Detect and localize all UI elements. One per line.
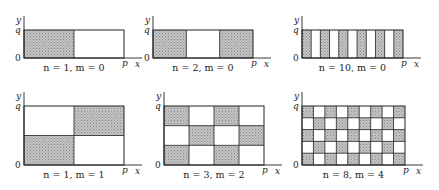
shaded-region bbox=[325, 130, 336, 142]
shaded-region bbox=[302, 130, 313, 142]
p-tick-label: p bbox=[251, 58, 257, 68]
shaded-region bbox=[24, 30, 74, 58]
panel-p3: yq0pxn = 10, m = 0 bbox=[293, 15, 421, 73]
x-axis-label: x bbox=[416, 166, 421, 176]
shaded-region bbox=[313, 118, 324, 130]
y-axis-label: y bbox=[15, 91, 22, 101]
shaded-region bbox=[382, 118, 393, 130]
origin-label: 0 bbox=[155, 160, 161, 170]
shaded-region bbox=[371, 153, 382, 165]
y-axis-label: y bbox=[144, 15, 151, 25]
p-tick-label: p bbox=[401, 58, 407, 68]
shaded-region bbox=[336, 118, 347, 130]
y-axis-label: y bbox=[293, 15, 300, 25]
shaded-region bbox=[359, 141, 370, 153]
x-axis-label: x bbox=[275, 166, 280, 176]
q-tick-label: q bbox=[293, 101, 299, 111]
panel-p4: yq0pxn = 1, m = 1 bbox=[15, 91, 142, 180]
origin-label: 0 bbox=[144, 53, 150, 63]
shaded-region bbox=[214, 145, 239, 165]
y-axis-label: y bbox=[155, 91, 162, 101]
nodal-pattern-figure: yq0pxn = 1, m = 0yq0pxn = 2, m = 0yq0pxn… bbox=[0, 0, 439, 190]
shaded-region bbox=[153, 30, 186, 58]
shaded-region bbox=[359, 118, 370, 130]
panel-caption: n = 2, m = 0 bbox=[172, 62, 233, 73]
shaded-region bbox=[375, 30, 384, 58]
panel-p6: yq0pxn = 8, m = 4 bbox=[293, 91, 423, 180]
shaded-region bbox=[302, 106, 313, 118]
shaded-region bbox=[164, 106, 189, 126]
q-tick-label: q bbox=[155, 101, 161, 111]
shaded-region bbox=[220, 30, 253, 58]
q-tick-label: q bbox=[15, 25, 21, 35]
p-tick-label: p bbox=[122, 58, 128, 68]
shaded-region bbox=[214, 106, 239, 126]
shaded-region bbox=[357, 30, 366, 58]
origin-label: 0 bbox=[15, 53, 21, 63]
x-axis-label: x bbox=[135, 59, 140, 69]
shaded-region bbox=[189, 126, 214, 146]
panel-caption: n = 1, m = 0 bbox=[43, 62, 104, 73]
shaded-region bbox=[336, 141, 347, 153]
panel-p1: yq0pxn = 1, m = 0 bbox=[15, 15, 142, 73]
origin-label: 0 bbox=[293, 53, 299, 63]
q-tick-label: q bbox=[15, 101, 21, 111]
shaded-region bbox=[371, 130, 382, 142]
x-axis-label: x bbox=[264, 59, 269, 69]
shaded-region bbox=[313, 141, 324, 153]
shaded-region bbox=[348, 106, 359, 118]
p-tick-label: p bbox=[403, 165, 409, 175]
shaded-region bbox=[394, 130, 405, 142]
shaded-region bbox=[74, 106, 124, 136]
q-tick-label: q bbox=[293, 25, 299, 35]
x-axis-label: x bbox=[414, 59, 419, 69]
shaded-region bbox=[339, 30, 348, 58]
origin-label: 0 bbox=[293, 160, 299, 170]
q-tick-label: q bbox=[144, 25, 150, 35]
shaded-region bbox=[302, 30, 311, 58]
shaded-region bbox=[394, 106, 405, 118]
shaded-region bbox=[24, 136, 74, 166]
shaded-region bbox=[382, 141, 393, 153]
shaded-region bbox=[371, 106, 382, 118]
panel-p5: yq0pxn = 3, m = 2 bbox=[155, 91, 282, 180]
shaded-region bbox=[239, 126, 264, 146]
domain-boundary bbox=[302, 30, 403, 58]
panel-caption: n = 10, m = 0 bbox=[319, 62, 386, 73]
origin-label: 0 bbox=[15, 160, 21, 170]
panel-caption: n = 8, m = 4 bbox=[323, 169, 384, 180]
shaded-region bbox=[348, 130, 359, 142]
shaded-region bbox=[325, 106, 336, 118]
shaded-region bbox=[320, 30, 329, 58]
shaded-region bbox=[394, 153, 405, 165]
shaded-region bbox=[302, 153, 313, 165]
shaded-region bbox=[348, 153, 359, 165]
y-axis-label: y bbox=[293, 91, 300, 101]
p-tick-label: p bbox=[122, 165, 128, 175]
panel-caption: n = 3, m = 2 bbox=[183, 169, 244, 180]
shaded-region bbox=[164, 145, 189, 165]
shaded-region bbox=[325, 153, 336, 165]
shaded-region bbox=[394, 30, 403, 58]
p-tick-label: p bbox=[262, 165, 268, 175]
panel-p2: yq0pxn = 2, m = 0 bbox=[144, 15, 271, 73]
x-axis-label: x bbox=[135, 166, 140, 176]
y-axis-label: y bbox=[15, 15, 22, 25]
panel-caption: n = 1, m = 1 bbox=[43, 169, 104, 180]
